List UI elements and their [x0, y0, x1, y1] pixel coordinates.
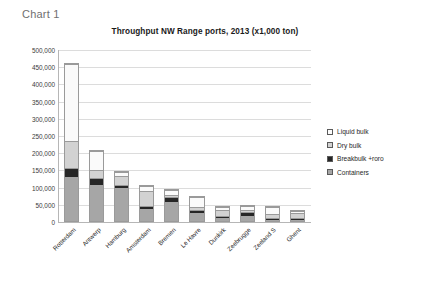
bar-segment-liquid-bulk	[65, 64, 78, 141]
legend-item[interactable]: Liquid bulk	[327, 128, 384, 135]
bar-segment-containers	[241, 216, 254, 221]
stacked-bar[interactable]	[265, 206, 280, 222]
y-axis-tick-label: 400,000	[32, 81, 55, 88]
bar-segment-dry-bulk	[115, 176, 128, 185]
bar-slot	[210, 50, 235, 222]
chart-legend: Liquid bulkDry bulkBreakbulk +roroContai…	[327, 128, 384, 176]
stacked-bar[interactable]	[139, 185, 154, 222]
x-label-slot: Antwerp	[84, 224, 109, 280]
chart-title: Throughput NW Range ports, 2013 (x1,000 …	[60, 27, 350, 36]
bar-segment-liquid-bulk	[90, 151, 103, 170]
x-label-slot: Le Havre	[184, 224, 209, 280]
bar-slot	[260, 50, 285, 222]
bar-segment-containers	[266, 220, 279, 221]
stacked-bar[interactable]	[64, 63, 79, 222]
x-label-slot: Ghent	[285, 224, 310, 280]
breakbulk-roro-swatch-icon	[327, 156, 333, 162]
stacked-bar[interactable]	[164, 189, 179, 222]
bar-segment-liquid-bulk	[190, 197, 203, 208]
dry-bulk-swatch-icon	[327, 142, 333, 148]
legend-item[interactable]: Breakbulk +roro	[327, 155, 384, 162]
bar-segment-containers	[291, 220, 304, 221]
bar-slot	[235, 50, 260, 222]
bar-slot	[59, 50, 84, 222]
bar-series-group	[59, 50, 310, 222]
bar-segment-containers	[65, 177, 78, 221]
x-axis-category-labels: RotterdamAntwerpHamburgAmsterdamBremenLe…	[59, 224, 310, 280]
chart-screenshot: Chart 1 Throughput NW Range ports, 2013 …	[0, 0, 423, 283]
y-axis-tick-label: 450,000	[32, 64, 55, 71]
liquid-bulk-swatch-icon	[327, 129, 333, 135]
stacked-bar[interactable]	[290, 210, 305, 222]
x-label-slot: Bremen	[159, 224, 184, 280]
y-axis-tick-label: 500,000	[32, 47, 55, 54]
x-axis-tick-label: Rotterdam	[51, 226, 77, 252]
y-axis-tick-label: 250,000	[32, 133, 55, 140]
chart-caption: Chart 1	[22, 8, 59, 20]
bar-slot	[285, 50, 310, 222]
bar-segment-containers	[216, 218, 229, 221]
bar-segment-containers	[140, 209, 153, 221]
legend-item-label: Containers	[337, 169, 369, 176]
stacked-bar[interactable]	[215, 206, 230, 222]
bar-slot	[84, 50, 109, 222]
stacked-bar[interactable]	[89, 150, 104, 222]
x-axis-tick-label: Bremen	[156, 226, 177, 247]
stacked-bar[interactable]	[240, 205, 255, 222]
bar-slot	[109, 50, 134, 222]
y-axis-tick-label: 0	[51, 219, 55, 226]
legend-item-label: Breakbulk +roro	[337, 155, 384, 162]
bar-segment-containers	[190, 213, 203, 221]
bar-segment-dry-bulk	[90, 170, 103, 178]
bar-segment-breakbulk-roro	[65, 168, 78, 177]
y-axis-tick-label: 100,000	[32, 184, 55, 191]
y-axis-tick-labels: 500,000450,000400,000350,000300,000250,0…	[0, 50, 55, 222]
bar-slot	[159, 50, 184, 222]
y-axis-tick-label: 300,000	[32, 115, 55, 122]
legend-item-label: Liquid bulk	[337, 128, 369, 135]
x-label-slot: Amsterdam	[134, 224, 159, 280]
y-axis-tick-label: 50,000	[35, 201, 55, 208]
stacked-bar[interactable]	[189, 196, 204, 222]
x-label-slot: Zeeland S	[260, 224, 285, 280]
x-label-slot: Rotterdam	[59, 224, 84, 280]
containers-swatch-icon	[327, 169, 333, 175]
x-axis-tick-label: Antwerp	[80, 226, 101, 247]
y-axis-tick-label: 150,000	[32, 167, 55, 174]
bar-segment-breakbulk-roro	[90, 178, 103, 185]
legend-item[interactable]: Dry bulk	[327, 142, 384, 149]
stacked-bar[interactable]	[114, 171, 129, 222]
y-axis-tick-label: 200,000	[32, 150, 55, 157]
bar-segment-containers	[115, 188, 128, 221]
x-label-slot: Zeebrugge	[235, 224, 260, 280]
y-axis-tick-label: 350,000	[32, 98, 55, 105]
bar-slot	[134, 50, 159, 222]
bar-segment-dry-bulk	[140, 191, 153, 206]
x-axis-tick-label: Ghent	[285, 226, 302, 243]
bar-segment-containers	[90, 185, 103, 221]
legend-item[interactable]: Containers	[327, 169, 384, 176]
bar-segment-liquid-bulk	[266, 207, 279, 214]
bar-segment-containers	[165, 202, 178, 221]
legend-item-label: Dry bulk	[337, 142, 361, 149]
bar-slot	[184, 50, 209, 222]
x-axis-tick-label: Dunkirk	[207, 226, 227, 246]
bar-segment-dry-bulk	[65, 141, 78, 168]
